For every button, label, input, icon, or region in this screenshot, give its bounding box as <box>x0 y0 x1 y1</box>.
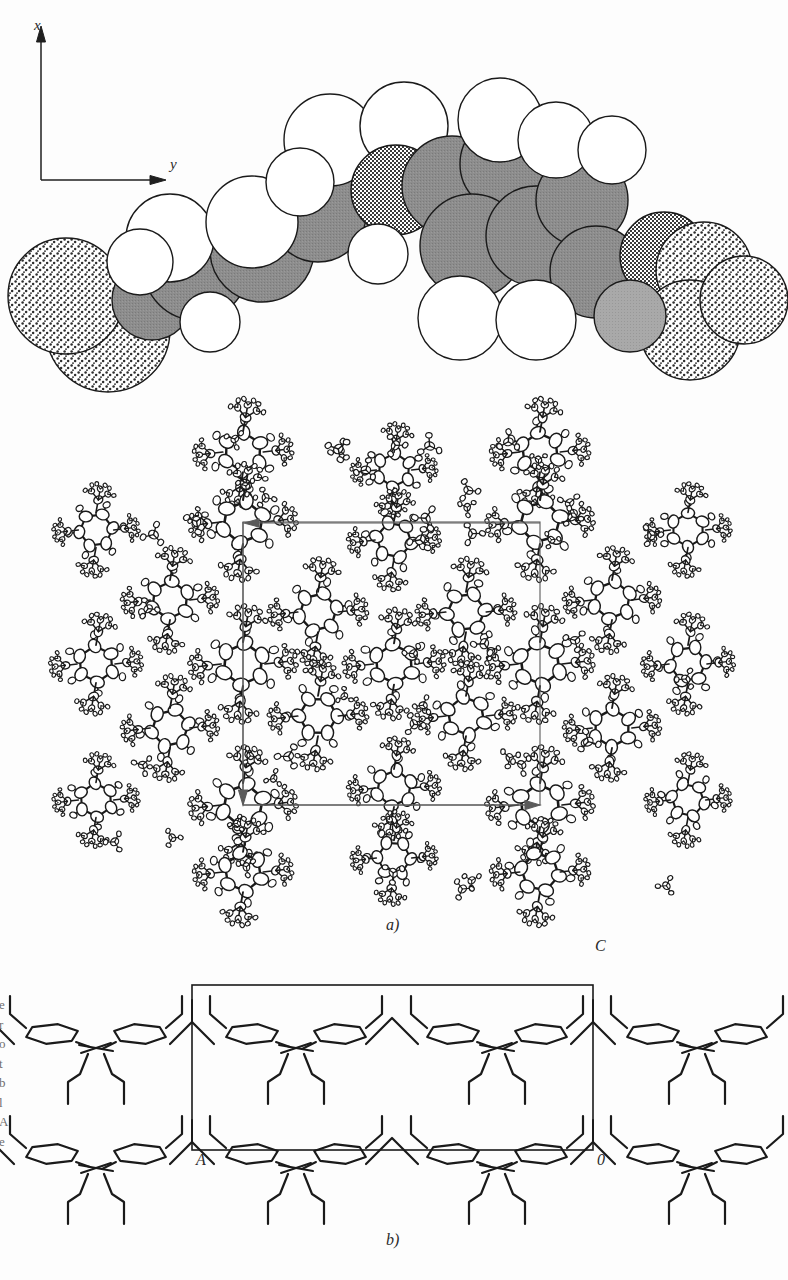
figure-root: x y a) b) C A 0 erotblAe <box>0 0 788 1280</box>
axis-y-label: y <box>170 157 177 172</box>
panel-a-label: a) <box>386 917 399 933</box>
panel-b-label: b) <box>386 1232 399 1248</box>
axis-x-label: x <box>34 18 41 33</box>
figure-canvas <box>0 0 788 1280</box>
cell-corner-label-c: C <box>595 938 606 954</box>
page-margin-text: erotblAe <box>0 995 13 1151</box>
cell-corner-label-origin: 0 <box>597 1152 605 1168</box>
cell-corner-label-a: A <box>196 1152 206 1168</box>
